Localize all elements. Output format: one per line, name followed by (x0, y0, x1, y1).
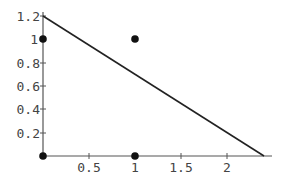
y-tick-label: 0.4 (17, 102, 41, 117)
y-tick-label: 0.8 (17, 56, 40, 71)
data-point (131, 35, 139, 43)
x-tick-label: 2 (223, 160, 231, 175)
plot-area: 0.5 1 1.5 2 0.2 0.4 0.6 0.8 1 1.2 (0, 0, 287, 177)
data-point (131, 152, 139, 160)
y-tick-label: 0.6 (17, 79, 40, 94)
y-tick-label: 0.2 (17, 126, 40, 141)
x-tick-label: 0.5 (77, 160, 100, 175)
y-tick-group: 0.2 0.4 0.6 0.8 1 1.2 (17, 9, 46, 141)
constraint-line (43, 16, 264, 156)
data-point (39, 35, 47, 43)
x-tick-label: 1 (131, 160, 139, 175)
x-tick-label: 1.5 (169, 160, 192, 175)
y-tick-label: 1.2 (17, 9, 40, 24)
data-point (39, 152, 47, 160)
y-tick-label: 1 (30, 32, 38, 47)
